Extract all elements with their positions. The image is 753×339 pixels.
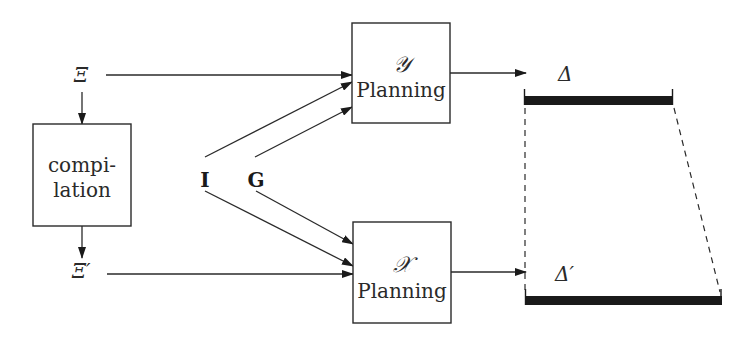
compilation-label-line1: compi- bbox=[48, 153, 116, 177]
xi-label: Ξ bbox=[73, 63, 89, 87]
x-planning-label: Planning bbox=[357, 279, 447, 303]
planning-compilation-diagram: Ξ compi- lation Ξ′ I G 𝒴 Planning 𝒳 Plan… bbox=[0, 0, 753, 339]
delta-prime-label: Δ′ bbox=[554, 262, 574, 286]
xi-prime-label: Ξ′ bbox=[71, 259, 91, 283]
i-to-y-planning-arrow bbox=[205, 82, 352, 157]
g-to-y-planning-arrow bbox=[255, 107, 352, 157]
initial-state-label: I bbox=[200, 168, 209, 192]
y-planning-label: Planning bbox=[356, 78, 446, 102]
compilation-box: compi- lation bbox=[33, 124, 131, 226]
y-planning-box: 𝒴 Planning bbox=[352, 23, 450, 123]
i-to-x-planning-arrow bbox=[205, 191, 353, 266]
delta-prime-plan-bar bbox=[525, 289, 722, 305]
compilation-label-line2: lation bbox=[53, 178, 111, 202]
x-planning-box: 𝒳 Planning bbox=[353, 222, 451, 323]
right-correspondence-dashed-line bbox=[674, 108, 720, 292]
g-to-x-planning-arrow bbox=[256, 191, 353, 244]
delta-plan-bar bbox=[524, 89, 673, 105]
delta-label: Δ bbox=[557, 62, 572, 86]
goal-label: G bbox=[247, 168, 264, 192]
